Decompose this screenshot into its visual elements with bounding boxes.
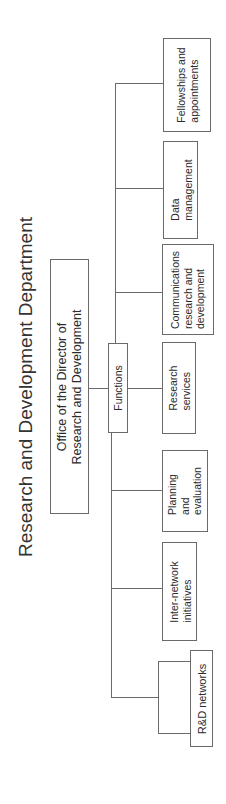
connector-communications [115,292,162,293]
unit-label: Fellowships and appointments [175,47,200,122]
unit-data-management: Data management [163,141,198,239]
functions-box: Functions [108,343,128,433]
unit-planning-evaluation: Planning and evaluation [162,450,208,532]
connector-inter-network [111,588,162,589]
unit-label-line: initiatives [180,561,193,622]
unit-inter-network-initiatives: Inter-network initiatives [162,542,197,641]
unit-label: Data management [168,159,193,220]
unit-label: Inter-network initiatives [167,561,192,622]
unit-label-line: appointments [187,47,200,122]
functions-label: Functions [112,365,125,411]
connector-data-management [115,188,163,189]
unit-label: Communications research and development [169,250,207,328]
connector-fellowships [115,83,163,84]
org-chart: Research and Development Department Offi… [0,0,226,804]
connector-functions-research-services [128,388,162,389]
unit-label-line: Fellowships and [175,47,188,122]
unit-label-line: Inter-network [167,561,180,622]
rd-bracket-vertical [158,661,159,734]
connector-planning [111,490,162,491]
unit-label-line: evaluation [191,467,204,515]
spine-upper [115,83,116,343]
office-label-line-2: Research and Development [70,309,85,464]
spine-lower [111,433,112,698]
connector-root-functions [89,388,108,389]
unit-label-line: Research [167,366,180,411]
unit-label-line: Communications [169,250,182,328]
office-of-director-label: Office of the Director of Research and D… [55,309,85,464]
unit-label-line: Data [168,159,181,220]
unit-fellowships-appointments: Fellowships and appointments [163,38,211,132]
office-of-director-box: Office of the Director of Research and D… [50,259,89,514]
unit-label: Research services [167,366,192,411]
unit-label-line: Planning [166,467,179,515]
chart-title: Research and Development Department [15,217,37,557]
unit-label-line: research and [182,250,195,328]
unit-research-services: Research services [162,342,196,434]
unit-label-line: development [194,250,207,328]
rd-bracket-top [158,661,190,662]
unit-label-line: services [179,366,192,411]
unit-label-line: and [179,467,192,515]
connector-rd-networks [111,697,158,698]
unit-communications-rd: Communications research and development [162,244,214,335]
unit-label: R&D networks [195,663,208,733]
unit-label: Planning and evaluation [166,467,204,515]
office-label-line-1: Office of the Director of [55,309,70,464]
unit-rd-networks: R&D networks [190,650,213,747]
rd-bracket-bottom [158,733,190,734]
unit-label-line: management [181,159,194,220]
